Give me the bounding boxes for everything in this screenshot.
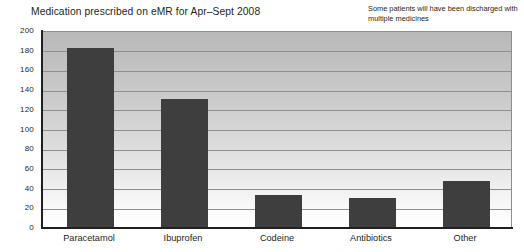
y-axis-tick-label: 0: [0, 223, 34, 232]
y-axis-tick-label: 60: [0, 164, 34, 173]
bar: [255, 195, 302, 228]
y-axis-tick-label: 20: [0, 203, 34, 212]
chart-annotation: Some patients will have been discharged …: [368, 4, 520, 24]
bar: [67, 48, 114, 227]
y-axis-line: [41, 30, 43, 229]
y-axis-tick-label: 120: [0, 105, 34, 114]
chart-title: Medication prescribed on eMR for Apr–Sep…: [31, 6, 260, 17]
y-axis-tick-label: 140: [0, 85, 34, 94]
bar: [161, 99, 208, 227]
bar: [443, 181, 490, 227]
y-axis-tick-label: 40: [0, 184, 34, 193]
y-axis-tick-label: 180: [0, 46, 34, 55]
y-axis-tick-label: 160: [0, 65, 34, 74]
x-axis-line: [41, 227, 513, 229]
y-axis-tick-label: 100: [0, 125, 34, 134]
x-axis-tick-label: Other: [405, 233, 524, 243]
bar-chart-figure: Medication prescribed on eMR for Apr–Sep…: [0, 0, 524, 252]
y-axis-tick-label: 80: [0, 144, 34, 153]
bar: [349, 198, 396, 227]
plot-area: [42, 31, 512, 228]
y-axis-tick-label: 200: [0, 26, 34, 35]
